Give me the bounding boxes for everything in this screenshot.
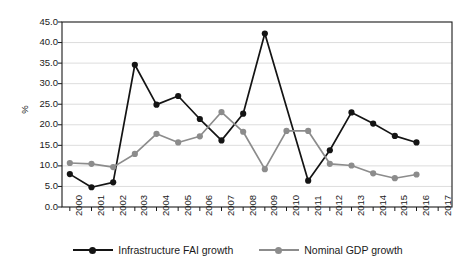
x-tick-label: 2006 (204, 195, 214, 216)
series-segment (395, 136, 417, 143)
series-segment (200, 112, 222, 136)
data-point (88, 184, 94, 190)
data-point (327, 147, 333, 153)
data-point (283, 128, 289, 134)
series-segment (200, 119, 222, 140)
data-point (413, 139, 419, 145)
legend-item-nominal-gdp-growth[interactable]: Nominal GDP growth (259, 244, 402, 256)
x-tick-label: 2015 (399, 195, 409, 216)
legend-label-infrastructure-fai-growth: Infrastructure FAI growth (118, 244, 233, 256)
data-point (348, 162, 354, 168)
data-point (218, 109, 224, 115)
series-segment (157, 134, 179, 143)
legend-swatch-nominal-gdp-growth (259, 245, 299, 255)
data-point (175, 139, 181, 145)
data-point (392, 175, 398, 181)
data-point (305, 178, 311, 184)
legend-label-nominal-gdp-growth: Nominal GDP growth (304, 244, 402, 256)
data-point (348, 109, 354, 115)
series-segment (135, 65, 157, 105)
data-point (132, 62, 138, 68)
series-segment (222, 112, 244, 132)
series-segment (70, 163, 92, 164)
x-tick-label: 2008 (248, 195, 258, 216)
data-point (305, 128, 311, 134)
series-segment (352, 165, 374, 173)
data-point (110, 179, 116, 185)
series-segment (308, 131, 330, 164)
data-point (88, 161, 94, 167)
x-tick-label: 2001 (96, 195, 106, 216)
data-point (197, 133, 203, 139)
data-point (110, 164, 116, 170)
data-point (370, 120, 376, 126)
data-point (240, 129, 246, 135)
x-tick-label: 2009 (269, 195, 279, 216)
series-segment (157, 96, 179, 105)
x-tick-label: 2013 (356, 195, 366, 216)
data-point (67, 171, 73, 177)
chart-legend: Infrastructure FAI growth Nominal GDP gr… (0, 240, 476, 260)
x-tick-label: 2007 (226, 195, 236, 216)
series-segment (70, 174, 92, 187)
x-tick-label: 2014 (378, 195, 388, 216)
data-point (413, 171, 419, 177)
series-layer (67, 30, 420, 190)
x-tick-label: 2012 (334, 195, 344, 216)
data-point (392, 133, 398, 139)
y-tick-label: 30.0 (18, 78, 58, 88)
data-point (218, 137, 224, 143)
y-tick-label: 20.0 (18, 119, 58, 129)
y-axis-tick-labels: 45.040.035.030.025.020.015.010.05.00.0 (14, 0, 58, 264)
data-point (175, 93, 181, 99)
x-tick-label: 2016 (421, 195, 431, 216)
y-tick-label: 10.0 (18, 160, 58, 170)
y-tick-label: 0.0 (18, 202, 58, 212)
x-tick-label: 2017 (443, 195, 453, 216)
series-segment (352, 112, 374, 123)
series-segment (395, 175, 417, 179)
data-point (370, 170, 376, 176)
data-point (153, 131, 159, 137)
legend-item-infrastructure-fai-growth[interactable]: Infrastructure FAI growth (73, 244, 233, 256)
data-point (240, 111, 246, 117)
series-segment (178, 136, 200, 142)
chart-figure: % 45.040.035.030.025.020.015.010.05.00.0… (0, 0, 476, 264)
data-point (262, 166, 268, 172)
y-tick-label: 15.0 (18, 140, 58, 150)
y-tick-label: 40.0 (18, 37, 58, 47)
series-segment (243, 34, 265, 114)
data-point (132, 151, 138, 157)
series-segment (243, 132, 265, 169)
series-segment (265, 131, 287, 169)
y-tick-label: 45.0 (18, 17, 58, 27)
x-tick-label: 2005 (183, 195, 193, 216)
data-point (153, 102, 159, 108)
x-tick-label: 2002 (118, 195, 128, 216)
series-segment (330, 112, 352, 150)
x-tick-label: 2011 (313, 196, 323, 216)
data-point (262, 30, 268, 36)
y-tick-label: 25.0 (18, 99, 58, 109)
x-tick-label: 2010 (291, 195, 301, 216)
y-tick-label: 5.0 (18, 181, 58, 191)
legend-swatch-infrastructure-fai-growth (73, 245, 113, 255)
series-segment (178, 96, 200, 119)
series-segment (373, 173, 395, 178)
series-segment (330, 164, 352, 166)
series-segment (135, 134, 157, 154)
x-tick-label: 2003 (139, 195, 149, 216)
data-point (197, 116, 203, 122)
y-axis-tick-marks (58, 22, 62, 207)
series-segment (373, 124, 395, 136)
data-point (327, 161, 333, 167)
x-tick-label: 2004 (161, 195, 171, 216)
plot-area (0, 0, 476, 264)
x-tick-label: 2000 (74, 195, 84, 216)
data-point (67, 160, 73, 166)
series-segment (222, 114, 244, 141)
y-tick-label: 35.0 (18, 58, 58, 68)
